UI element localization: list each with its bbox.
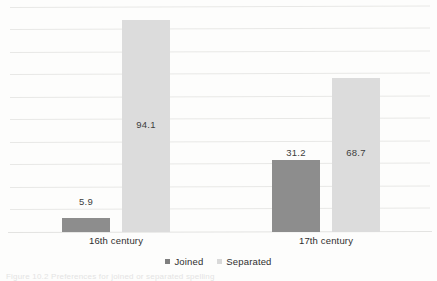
gridline [10,5,430,8]
gridline [10,50,430,53]
legend-swatch-icon-joined [165,259,170,264]
bar-joined-17th-century[interactable] [272,160,320,232]
gridline [10,27,430,30]
x-axis-label-17th-century: 17th century [276,235,376,246]
plot-area: 5.9 94.1 31.2 68.7 16th century 17th cen… [0,0,437,233]
legend-item-separated[interactable]: Separated [217,256,271,267]
bar-chart-figure: 5.9 94.1 31.2 68.7 16th century 17th cen… [0,0,437,281]
bar-value-separated-16th-century: 94.1 [116,119,176,130]
bar-value-joined-16th-century: 5.9 [56,196,116,207]
legend-item-joined[interactable]: Joined [165,256,203,267]
bar-value-joined-17th-century: 31.2 [266,147,326,158]
legend-label-joined: Joined [174,256,203,267]
x-axis-label-16th-century: 16th century [66,235,166,246]
gridline [10,72,430,75]
figure-caption: Figure 10.2 Preferences for joined or se… [6,272,306,281]
legend-swatch-icon-separated [217,259,222,264]
legend-label-separated: Separated [226,256,271,267]
legend: Joined Separated [0,256,437,267]
bar-joined-16th-century[interactable] [62,218,110,232]
bar-value-separated-17th-century: 68.7 [326,147,386,158]
